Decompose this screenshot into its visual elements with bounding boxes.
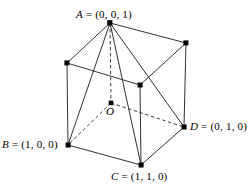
- vertex-label-B: B = (1, 0, 0): [2, 138, 58, 150]
- edge-b-c: [68, 145, 141, 165]
- edge-o-b-dashed: [68, 103, 111, 145]
- edge-vertical-right: [184, 43, 186, 127]
- vertex-label-D-equals: =: [201, 120, 207, 132]
- edge-a-o-dashed: [110, 23, 111, 103]
- vertex-label-D-name: D: [190, 120, 198, 132]
- hidden-edges: [68, 23, 184, 145]
- edge-c-d: [141, 127, 184, 165]
- vertex-label-B-name: B: [2, 138, 9, 150]
- vertex-dot-B: [66, 143, 71, 148]
- vertex-dot-C: [139, 163, 144, 168]
- vertex-label-C-equals: =: [122, 170, 128, 182]
- cube-tetrahedron-figure: A = (0, 0, 1) B = (1, 0, 0) C = (1, 1, 0…: [0, 0, 248, 189]
- vertex-label-A-equals: =: [86, 8, 92, 20]
- edge-vertical-back: [140, 85, 141, 165]
- edge-topleft-back: [67, 63, 140, 85]
- edge-back-topright: [140, 43, 186, 85]
- vertex-label-C-name: C: [111, 170, 119, 182]
- edge-a-b: [68, 23, 110, 145]
- vertex-label-A: A = (0, 0, 1): [76, 8, 132, 20]
- vertex-label-D-coords: (0, 1, 0): [210, 120, 247, 132]
- vertex-dots: [64, 20, 188, 167]
- vertex-label-A-name: A: [76, 8, 83, 20]
- edge-apex-topright: [110, 23, 186, 43]
- figure-canvas: [0, 0, 248, 189]
- vertex-dot-D: [182, 125, 187, 130]
- vertex-dot-back: [138, 83, 143, 88]
- vertex-dot-A: [107, 20, 112, 25]
- vertex-label-A-coords: (0, 0, 1): [95, 8, 132, 20]
- cube-top-face: [67, 23, 186, 85]
- vertex-label-C-coords: (1, 1, 0): [131, 170, 168, 182]
- vertex-dot-topright: [183, 40, 188, 45]
- edge-vertical-left: [67, 63, 68, 145]
- vertex-label-O-name: O: [106, 105, 114, 117]
- vertex-dot-topleft: [64, 60, 69, 65]
- vertex-label-O: O: [106, 105, 114, 117]
- vertex-label-D: D = (0, 1, 0): [190, 120, 247, 132]
- edge-o-d-dashed: [111, 103, 184, 127]
- vertex-label-B-coords: (1, 0, 0): [21, 138, 58, 150]
- vertex-label-C: C = (1, 1, 0): [111, 170, 168, 182]
- cube-bottom-face: [68, 127, 184, 165]
- tetrahedron-edges: [68, 23, 184, 165]
- vertex-label-B-equals: =: [12, 138, 18, 150]
